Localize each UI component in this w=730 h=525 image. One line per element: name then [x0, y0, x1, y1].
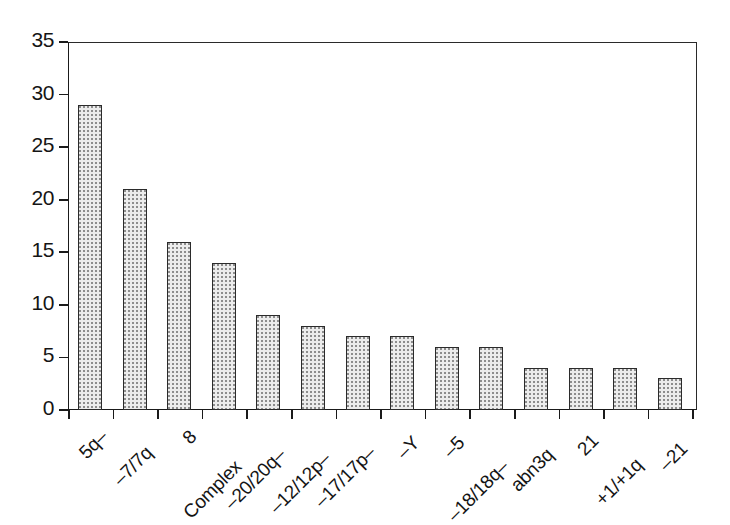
x-axis-tick-mark [603, 410, 605, 419]
y-axis-tick-label: 25 [31, 134, 54, 155]
bar[interactable] [301, 326, 325, 410]
y-axis-tick-mark [59, 94, 68, 96]
x-axis-tick-mark [380, 410, 382, 419]
x-axis-tick-mark [425, 410, 427, 419]
y-axis-tick-mark [59, 199, 68, 201]
x-axis-tick-mark [202, 410, 204, 419]
bar[interactable] [123, 189, 147, 410]
y-axis-tick-mark [59, 41, 68, 43]
y-axis-tick-label: 10 [31, 292, 54, 313]
x-axis-tick-mark [648, 410, 650, 419]
bar[interactable] [524, 368, 548, 410]
y-axis-tick-mark [59, 251, 68, 253]
y-axis-tick-label: 0 [43, 397, 54, 418]
y-axis-tick-label: 15 [31, 239, 54, 260]
bar[interactable] [212, 263, 236, 410]
x-axis-tick-mark [157, 410, 159, 419]
x-axis-ticks [68, 410, 697, 422]
x-axis-tick-mark [469, 410, 471, 419]
bar[interactable] [390, 336, 414, 410]
y-axis-tick-mark [59, 146, 68, 148]
y-axis-tick-label: 30 [31, 82, 54, 103]
y-axis-tick-label: 35 [31, 29, 54, 50]
bars-container [68, 42, 697, 410]
bar[interactable] [435, 347, 459, 410]
bar[interactable] [613, 368, 637, 410]
x-axis-tick-mark [246, 410, 248, 419]
bar[interactable] [479, 347, 503, 410]
x-axis-tick-mark [291, 410, 293, 419]
x-axis-tick-mark [113, 410, 115, 419]
bar[interactable] [658, 378, 682, 410]
bar[interactable] [256, 315, 280, 410]
bar-chart: 05101520253035 5q––7/7q8Complex–20/20q––… [0, 0, 730, 525]
bar[interactable] [346, 336, 370, 410]
y-axis-tick-label: 5 [43, 344, 54, 365]
x-axis-tick-mark [559, 410, 561, 419]
y-axis-tick-label: 20 [31, 187, 54, 208]
x-axis-tick-mark [68, 410, 70, 419]
y-axis-tick-mark [59, 357, 68, 359]
y-axis-tick-mark [59, 304, 68, 306]
y-axis: 05101520253035 [0, 42, 68, 410]
bar[interactable] [167, 242, 191, 410]
x-axis-tick-mark [514, 410, 516, 419]
y-axis-tick-mark [59, 409, 68, 411]
x-axis-tick-mark [336, 410, 338, 419]
x-axis-tick-mark [692, 410, 694, 419]
bar[interactable] [78, 105, 102, 410]
bar[interactable] [569, 368, 593, 410]
